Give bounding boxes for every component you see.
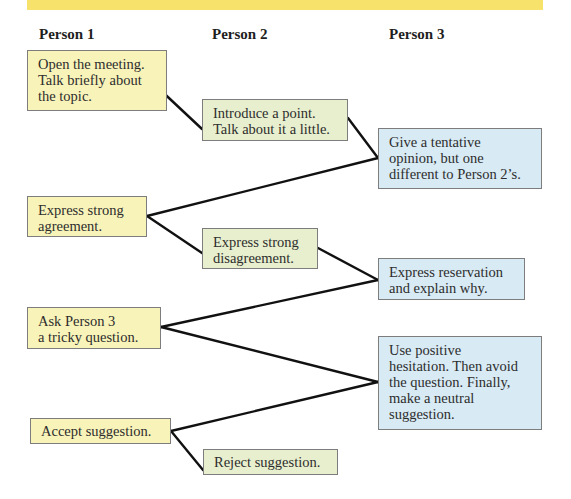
connector-step9-step10 bbox=[171, 431, 203, 470]
connector-step5-step6 bbox=[318, 248, 378, 280]
connector-step3-step4 bbox=[147, 158, 378, 216]
step-box-7-tricky-question: Ask Person 3 a tricky question. bbox=[27, 307, 161, 349]
step-box-3-tentative-opinion: Give a tentative opinion, but one differ… bbox=[378, 128, 542, 189]
connector-step7-step8 bbox=[161, 327, 378, 382]
connector-step4-step5 bbox=[147, 216, 202, 253]
step-box-2-introduce-point: Introduce a point. Talk about it a littl… bbox=[202, 99, 348, 141]
step-box-1-open-meeting: Open the meeting. Talk briefly about the… bbox=[27, 50, 167, 111]
connector-step2-step3 bbox=[348, 118, 378, 158]
step-box-6-express-reservation: Express reservation and explain why. bbox=[378, 258, 525, 300]
step-box-4-strong-agreement: Express strong agreement. bbox=[27, 196, 147, 237]
step-box-10-reject-suggestion: Reject suggestion. bbox=[203, 449, 338, 475]
step-box-9-accept-suggestion: Accept suggestion. bbox=[30, 418, 171, 444]
connector-step8-step9 bbox=[171, 382, 378, 431]
connector-step6-step7 bbox=[161, 280, 378, 327]
step-box-5-strong-disagreement: Express strong disagreement. bbox=[202, 228, 318, 269]
step-box-8-positive-hesitation: Use positive hesitation. Then avoid the … bbox=[378, 336, 542, 430]
